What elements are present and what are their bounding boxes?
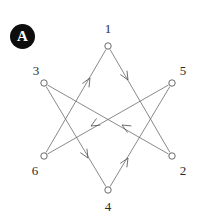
edges-group xyxy=(46,49,170,186)
node-2[interactable] xyxy=(169,153,175,159)
node-1[interactable] xyxy=(105,43,111,49)
node-label-6: 6 xyxy=(32,164,39,177)
node-label-5: 5 xyxy=(180,64,187,77)
node-label-2: 2 xyxy=(180,164,187,177)
figure-panel: A 135624 xyxy=(0,0,202,216)
node-4[interactable] xyxy=(105,187,111,193)
panel-badge: A xyxy=(10,24,35,49)
node-6[interactable] xyxy=(41,153,47,159)
node-label-4: 4 xyxy=(105,200,112,213)
node-label-3: 3 xyxy=(33,64,40,77)
node-3[interactable] xyxy=(41,80,47,86)
node-5[interactable] xyxy=(169,80,175,86)
arrowheads-group xyxy=(81,71,131,167)
arrowhead-5-to-6 xyxy=(91,119,100,126)
nodes-group xyxy=(41,43,175,193)
node-label-1: 1 xyxy=(105,22,112,35)
